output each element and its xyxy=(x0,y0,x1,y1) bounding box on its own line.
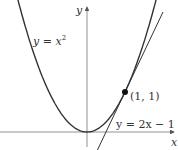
tangent-line-label: y = 2x − 1 xyxy=(115,118,175,131)
y-axis-label: y xyxy=(75,4,83,17)
parabola-label-exponent: 2 xyxy=(62,34,66,42)
graph: x y y = x2 y = 2x − 1 (1, 1) xyxy=(0,0,178,150)
point-label: (1, 1) xyxy=(130,90,160,103)
parabola-label-base: y = x xyxy=(32,35,62,48)
x-axis-label: x xyxy=(171,136,178,149)
tangent-point xyxy=(122,89,128,95)
parabola-label: y = x2 xyxy=(32,34,66,48)
